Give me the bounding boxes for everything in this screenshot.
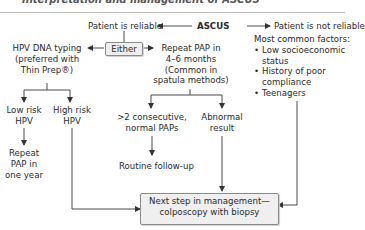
next-step-box: Next step in management— colposcopy with…	[140, 193, 279, 225]
repeat-year-line: one year	[4, 170, 44, 181]
repeat-pap-one-year: Repeat PAP in one year	[4, 148, 44, 180]
repeat-pap-line: (Common in	[150, 65, 232, 76]
next-step-line: colposcopy with biopsy	[141, 207, 278, 218]
repeat-year-line: Repeat	[4, 148, 44, 159]
low-risk-line: Low risk	[4, 105, 44, 116]
repeat-pap-line: 4–6 months	[150, 54, 232, 65]
low-risk-line: HPV	[4, 116, 44, 127]
abnormal-line: result	[197, 123, 247, 134]
risk-factors-title: Most common factors:	[254, 34, 350, 45]
abnormal-line: Abnormal	[197, 112, 247, 123]
normal-paps-line: normal PAPs	[112, 123, 192, 134]
hpv-line: HPV DNA typing	[8, 43, 86, 54]
repeat-pap-4-6: Repeat PAP in 4–6 months (Common in spat…	[150, 43, 232, 86]
low-risk-hpv: Low risk HPV	[4, 105, 44, 127]
high-risk-line: High risk	[50, 105, 94, 116]
repeat-year-line: PAP in	[4, 159, 44, 170]
risk-factor-item: History of poor compliance	[254, 66, 350, 88]
either-box: Either	[105, 42, 143, 56]
risk-factors-list: Low socioeconomic status History of poor…	[254, 45, 350, 99]
hpv-dna-typing: HPV DNA typing (preferred with Thin Prep…	[8, 43, 86, 75]
label-ascus: ASCUS	[197, 21, 229, 32]
label-patient-reliable: Patient is reliable	[88, 21, 162, 32]
next-step-line: Next step in management—	[141, 196, 278, 207]
risk-factors: Most common factors: Low socioeconomic s…	[254, 34, 350, 99]
repeat-pap-line: spatula methods)	[150, 75, 232, 86]
risk-factor-item: Low socioeconomic status	[254, 45, 350, 67]
normal-paps-line: >2 consecutive,	[112, 112, 192, 123]
abnormal-result: Abnormal result	[197, 112, 247, 134]
high-risk-hpv: High risk HPV	[50, 105, 94, 127]
label-patient-not-reliable: Patient is not reliable	[274, 21, 365, 32]
high-risk-line: HPV	[50, 116, 94, 127]
hpv-line: Thin Prep®)	[8, 65, 86, 76]
hpv-line: (preferred with	[8, 54, 86, 65]
repeat-pap-line: Repeat PAP in	[150, 43, 232, 54]
risk-factor-item: Teenagers	[254, 88, 350, 99]
normal-paps: >2 consecutive, normal PAPs	[112, 112, 192, 134]
routine-follow-up: Routine follow-up	[119, 161, 194, 172]
